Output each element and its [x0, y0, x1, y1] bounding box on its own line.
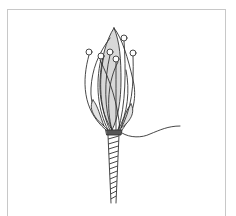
stem-wrap-line: [111, 196, 116, 199]
stem-wrap-line: [109, 151, 118, 154]
stamen-anther-3: [107, 49, 113, 55]
stem-wrap-line: [110, 166, 118, 169]
stem-wrap-line: [109, 156, 118, 159]
stem-wrap-line: [110, 181, 117, 184]
bud-base-binding: [106, 130, 122, 135]
stamen-anther-1: [86, 49, 92, 55]
stem-wrap-line: [110, 171, 118, 174]
stem-wrap-line: [111, 191, 117, 194]
stem-right-edge: [116, 135, 119, 203]
stem-wrap-line: [110, 186, 116, 189]
stem-wrap-line: [108, 141, 118, 144]
stem-wrap-line: [109, 146, 119, 149]
stamen-anther-5: [121, 35, 127, 41]
stem-wrap-line: [109, 161, 117, 164]
stamen-anther-6: [130, 50, 136, 56]
stamen-anther-4: [113, 56, 119, 62]
stamen-anther-2: [98, 53, 104, 59]
ribbon-tail: [122, 126, 180, 137]
flower-bud-illustration: [0, 0, 236, 216]
stem-wrap-line: [108, 136, 119, 139]
stem-wrap-line: [110, 176, 117, 179]
